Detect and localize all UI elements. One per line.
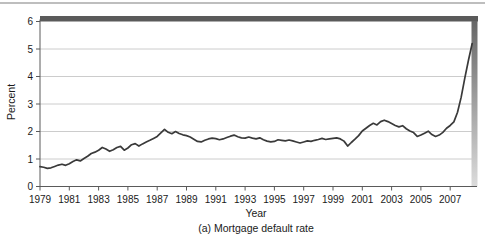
x-tick-label-1981: 1981 xyxy=(58,194,81,205)
x-tick-label-2005: 2005 xyxy=(410,194,433,205)
x-tick-label-1989: 1989 xyxy=(175,194,198,205)
x-tick-label-1983: 1983 xyxy=(87,194,110,205)
chart-canvas: 0123456197919811983198519871989199119931… xyxy=(0,0,485,246)
y-tick-label-1: 1 xyxy=(27,154,33,165)
y-tick-label-5: 5 xyxy=(27,44,33,55)
x-tick-label-2003: 2003 xyxy=(380,194,403,205)
default-rate-line xyxy=(40,44,472,169)
plot-top-frame-bar xyxy=(40,16,478,22)
x-tick-label-1987: 1987 xyxy=(146,194,169,205)
y-tick-label-0: 0 xyxy=(27,181,33,192)
chart-caption: (a) Mortgage default rate xyxy=(198,222,314,234)
x-axis-title: Year xyxy=(245,207,266,219)
x-tick-label-1985: 1985 xyxy=(117,194,140,205)
y-tick-label-3: 3 xyxy=(27,99,33,110)
y-tick-label-4: 4 xyxy=(27,71,33,82)
y-axis-title: Percent xyxy=(5,84,17,120)
x-tick-label-2007: 2007 xyxy=(439,194,462,205)
figure-mortgage-default-rate: 0123456197919811983198519871989199119931… xyxy=(0,0,485,246)
x-tick-label-2001: 2001 xyxy=(351,194,374,205)
x-tick-label-1997: 1997 xyxy=(293,194,316,205)
x-tick-label-1991: 1991 xyxy=(205,194,228,205)
x-tick-label-1993: 1993 xyxy=(234,194,257,205)
x-tick-label-1995: 1995 xyxy=(263,194,286,205)
x-tick-label-1979: 1979 xyxy=(29,194,52,205)
x-tick-label-1999: 1999 xyxy=(322,194,345,205)
y-tick-label-6: 6 xyxy=(27,16,33,27)
y-tick-label-2: 2 xyxy=(27,126,33,137)
